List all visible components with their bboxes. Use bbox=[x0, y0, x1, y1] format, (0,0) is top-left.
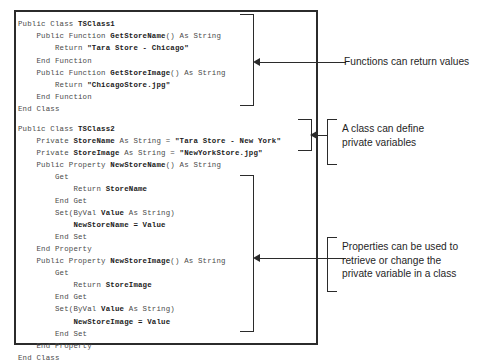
code-token-emphasis: StoreImage bbox=[73, 149, 119, 157]
code-token-emphasis: Value bbox=[101, 305, 124, 313]
code-token: () As String bbox=[166, 32, 221, 40]
code-token-emphasis: Value bbox=[101, 209, 124, 217]
code-token: End Function bbox=[18, 57, 92, 65]
code-token-emphasis: NewStoreImage bbox=[110, 257, 170, 265]
code-token: Set(ByVal bbox=[18, 305, 101, 313]
code-token: End Function bbox=[18, 93, 92, 101]
code-line: Get bbox=[18, 267, 318, 279]
code-token: End Get bbox=[18, 293, 87, 301]
code-token: Return bbox=[18, 185, 106, 193]
code-line: End Get bbox=[18, 291, 318, 303]
leader-line-functions bbox=[258, 62, 346, 63]
code-token: () As String bbox=[170, 257, 225, 265]
code-line: End Function bbox=[18, 91, 318, 103]
code-line: Public Function GetStoreName() As String bbox=[18, 30, 318, 42]
code-line: Private StoreName As String = "Tara Stor… bbox=[18, 135, 318, 147]
code-token: Return bbox=[18, 44, 87, 52]
code-token bbox=[18, 221, 73, 229]
code-line: Private StoreImage As String = "NewYorkS… bbox=[18, 147, 318, 159]
code-token: As String = bbox=[120, 149, 180, 157]
annotation-class-private-variables: A class can define private variables bbox=[342, 122, 474, 149]
code-line: End Class bbox=[18, 103, 318, 115]
code-token: Return bbox=[18, 81, 87, 89]
code-token-emphasis: TSClass2 bbox=[78, 125, 115, 133]
code-line: NewStoreImage = Value bbox=[18, 316, 318, 328]
code-token: Public Property bbox=[18, 257, 110, 265]
code-token: Private bbox=[18, 137, 73, 145]
code-token: End Property bbox=[18, 245, 92, 253]
code-token: End Set bbox=[18, 233, 87, 241]
code-token-emphasis: GetStoreImage bbox=[110, 69, 170, 77]
code-token: () As String bbox=[166, 161, 221, 169]
annotation-functions-return-values: Functions can return values bbox=[344, 55, 474, 69]
code-token: Get bbox=[18, 269, 69, 277]
bracket-properties-block bbox=[240, 175, 254, 332]
code-line: End Property bbox=[18, 243, 318, 255]
code-token-emphasis: "Tara Store - Chicago" bbox=[87, 44, 189, 52]
code-token: End Class bbox=[18, 105, 60, 113]
code-line: Public Function GetStoreImage() As Strin… bbox=[18, 67, 318, 79]
code-line: End Set bbox=[18, 328, 318, 340]
bracket-functions-block bbox=[240, 14, 254, 106]
code-line: End Function bbox=[18, 55, 318, 67]
code-token: Private bbox=[18, 149, 73, 157]
code-token-emphasis: StoreImage bbox=[106, 281, 152, 289]
code-token-emphasis: GetStoreName bbox=[110, 32, 165, 40]
code-line: Return "Tara Store - Chicago" bbox=[18, 42, 318, 54]
code-line: Return StoreName bbox=[18, 183, 318, 195]
code-token: Public Class bbox=[18, 125, 78, 133]
code-line: Public Class TSClass1 bbox=[18, 18, 318, 30]
code-token-emphasis: NewStoreName = Value bbox=[73, 221, 165, 229]
code-token-emphasis: "NewYorkStore.jpg" bbox=[180, 149, 263, 157]
code-line bbox=[18, 115, 318, 123]
code-line: End Get bbox=[18, 195, 318, 207]
code-line: End Set bbox=[18, 231, 318, 243]
code-token: As String) bbox=[124, 305, 175, 313]
arrowhead-functions bbox=[253, 58, 260, 66]
code-token: As String = bbox=[115, 137, 175, 145]
code-line: Return StoreImage bbox=[18, 279, 318, 291]
code-token: () As String bbox=[170, 69, 225, 77]
code-token: Public Function bbox=[18, 32, 110, 40]
annotation-properties-retrieve-change: Properties can be used to retrieve or ch… bbox=[342, 240, 478, 281]
code-token-emphasis: "Tara Store - New York" bbox=[175, 137, 281, 145]
code-token-emphasis: TSClass1 bbox=[78, 20, 115, 28]
bracket-callout-properties bbox=[327, 237, 337, 292]
code-token: Public Property bbox=[18, 161, 110, 169]
code-token: End Get bbox=[18, 197, 87, 205]
code-token-emphasis: StoreName bbox=[73, 137, 115, 145]
code-token: Get bbox=[18, 173, 69, 181]
code-token bbox=[18, 318, 73, 326]
code-token-emphasis: "ChicagoStore.jpg" bbox=[87, 81, 170, 89]
code-line: End Class bbox=[18, 352, 318, 360]
code-line: Get bbox=[18, 171, 318, 183]
code-token: As String) bbox=[124, 209, 175, 217]
code-token-emphasis: NewStoreImage = Value bbox=[73, 318, 170, 326]
code-token: Public Function bbox=[18, 69, 110, 77]
code-token: End Set bbox=[18, 330, 87, 338]
bracket-callout-private-variables bbox=[327, 119, 337, 165]
code-line: End Property bbox=[18, 340, 318, 352]
code-line: Set(ByVal Value As String) bbox=[18, 207, 318, 219]
code-token: Return bbox=[18, 281, 106, 289]
code-token: Set(ByVal bbox=[18, 209, 101, 217]
code-line: Public Class TSClass2 bbox=[18, 123, 318, 135]
code-line: Return "ChicagoStore.jpg" bbox=[18, 79, 318, 91]
code-token-emphasis: StoreName bbox=[106, 185, 148, 193]
code-line: NewStoreName = Value bbox=[18, 219, 318, 231]
code-token-emphasis: NewStoreName bbox=[110, 161, 165, 169]
code-line: Set(ByVal Value As String) bbox=[18, 303, 318, 315]
code-listing: Public Class TSClass1 Public Function Ge… bbox=[18, 18, 318, 360]
arrowhead-properties bbox=[253, 254, 260, 262]
code-token: Public Class bbox=[18, 20, 78, 28]
arrowhead-private-variables bbox=[310, 131, 317, 139]
code-line: Public Property NewStoreName() As String bbox=[18, 159, 318, 171]
leader-line-properties bbox=[258, 258, 346, 259]
code-token: End Class bbox=[18, 354, 60, 360]
code-token: End Property bbox=[18, 342, 92, 350]
